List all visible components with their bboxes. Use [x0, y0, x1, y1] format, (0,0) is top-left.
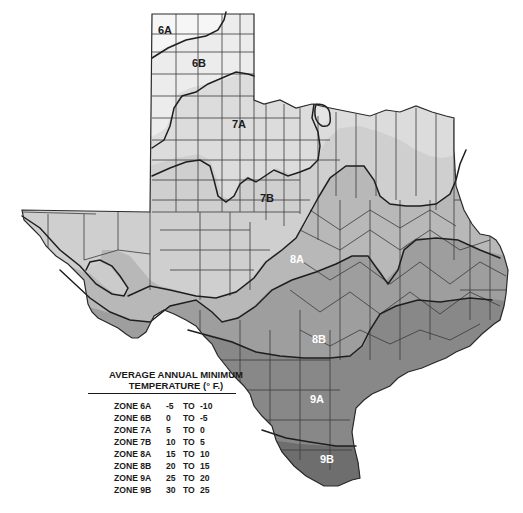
zone-label-6a: 6A	[158, 24, 172, 36]
legend-to: 20	[200, 472, 230, 484]
legend-to-word: TO	[183, 448, 200, 460]
legend-to-word: TO	[183, 424, 200, 436]
legend-zone: ZONE 6A	[114, 400, 166, 412]
legend-zone: ZONE 7B	[114, 436, 166, 448]
legend-from: 0	[166, 412, 183, 424]
legend-divider	[88, 393, 236, 394]
legend-to-word: TO	[183, 484, 200, 496]
legend-from: 15	[166, 448, 183, 460]
legend-to-word: TO	[183, 400, 200, 412]
zone-label-8a: 8A	[290, 253, 304, 265]
legend-to: 5	[200, 436, 230, 448]
temperature-legend: AVERAGE ANNUAL MINIMUM TEMPERATURE (° F.…	[88, 369, 264, 496]
legend-row: ZONE 9A 25 TO 20	[114, 472, 264, 484]
legend-row: ZONE 9B 30 TO 25	[114, 484, 264, 496]
legend-to: 25	[200, 484, 230, 496]
legend-zone: ZONE 9B	[114, 484, 166, 496]
legend-zone: ZONE 6B	[114, 412, 166, 424]
legend-zone: ZONE 8A	[114, 448, 166, 460]
legend-from: 20	[166, 460, 183, 472]
legend-to-word: TO	[183, 412, 200, 424]
legend-from: 25	[166, 472, 183, 484]
legend-from: -5	[166, 400, 183, 412]
legend-title-line2: TEMPERATURE (° F.)	[88, 380, 264, 391]
legend-to: 10	[200, 448, 230, 460]
legend-zone: ZONE 8B	[114, 460, 166, 472]
legend-to-word: TO	[183, 460, 200, 472]
legend-row: ZONE 6A -5 TO -10	[114, 400, 264, 412]
zone-label-9b: 9B	[320, 453, 334, 465]
legend-to: -5	[200, 412, 230, 424]
legend-from: 5	[166, 424, 183, 436]
legend-row: ZONE 7A 5 TO 0	[114, 424, 264, 436]
legend-row: ZONE 7B 10 TO 5	[114, 436, 264, 448]
zone-label-8b: 8B	[312, 333, 326, 345]
legend-to: 0	[200, 424, 230, 436]
legend-zone: ZONE 7A	[114, 424, 166, 436]
zone-label-7b: 7B	[260, 192, 274, 204]
legend-to-word: TO	[183, 436, 200, 448]
legend-row: ZONE 8B 20 TO 15	[114, 460, 264, 472]
zone-label-7a: 7A	[232, 118, 246, 130]
legend-to: 15	[200, 460, 230, 472]
legend-title-line1: AVERAGE ANNUAL MINIMUM	[88, 369, 264, 380]
legend-to: -10	[200, 400, 230, 412]
zone-label-6b: 6B	[192, 57, 206, 69]
zone-label-9a: 9A	[310, 393, 324, 405]
legend-from: 10	[166, 436, 183, 448]
legend-from: 30	[166, 484, 183, 496]
legend-zone: ZONE 9A	[114, 472, 166, 484]
legend-row: ZONE 8A 15 TO 10	[114, 448, 264, 460]
legend-to-word: TO	[183, 472, 200, 484]
legend-row: ZONE 6B 0 TO -5	[114, 412, 264, 424]
